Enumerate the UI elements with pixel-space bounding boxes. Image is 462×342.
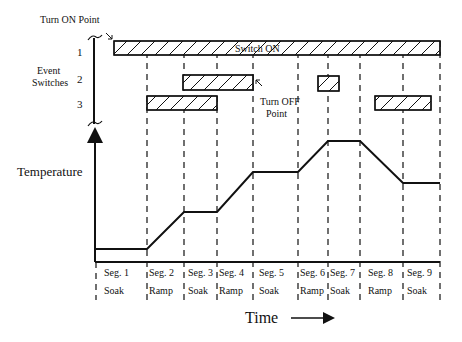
event-switches-label-2: Switches bbox=[32, 77, 68, 89]
segment-1-type: Soak bbox=[104, 285, 124, 297]
switch-3-bar-a bbox=[147, 96, 217, 110]
switch-on-label: Switch ON bbox=[235, 43, 280, 55]
segment-4-type: Ramp bbox=[219, 285, 243, 297]
segment-5-type: Soak bbox=[259, 285, 279, 297]
segment-2-name: Seg. 2 bbox=[149, 267, 174, 279]
switch-3-bar-b bbox=[375, 96, 431, 110]
time-label: Time bbox=[245, 309, 278, 327]
axes bbox=[88, 35, 440, 262]
event-switches-label-1: Event bbox=[37, 65, 60, 77]
switch-2-bar-b bbox=[318, 76, 339, 91]
segment-6-type: Ramp bbox=[300, 285, 324, 297]
segment-8-name: Seg. 8 bbox=[368, 267, 393, 279]
switch-number-2: 2 bbox=[77, 73, 83, 85]
segment-4-name: Seg. 4 bbox=[219, 267, 244, 279]
temperature-profile bbox=[96, 141, 440, 249]
turn-off-label-1: Turn OFF bbox=[260, 96, 300, 108]
switch-number-1: 1 bbox=[77, 46, 83, 58]
segment-3-name: Seg. 3 bbox=[188, 267, 213, 279]
segment-9-name: Seg. 9 bbox=[407, 267, 432, 279]
switch-2-bar-a bbox=[183, 75, 253, 90]
temperature-label: Temperature bbox=[17, 166, 83, 178]
segment-5-name: Seg. 5 bbox=[259, 267, 284, 279]
switch-number-3: 3 bbox=[77, 98, 83, 110]
turn-off-label-2: Point bbox=[266, 108, 287, 120]
turn-on-point-label: Turn ON Point bbox=[40, 14, 100, 26]
segment-7-type: Soak bbox=[330, 285, 350, 297]
segment-3-type: Soak bbox=[188, 285, 208, 297]
segment-8-type: Ramp bbox=[368, 285, 392, 297]
segment-9-type: Soak bbox=[407, 285, 427, 297]
segment-1-name: Seg. 1 bbox=[104, 267, 129, 279]
segment-2-type: Ramp bbox=[149, 285, 173, 297]
segment-6-name: Seg. 6 bbox=[300, 267, 325, 279]
segment-7-name: Seg. 7 bbox=[330, 267, 355, 279]
